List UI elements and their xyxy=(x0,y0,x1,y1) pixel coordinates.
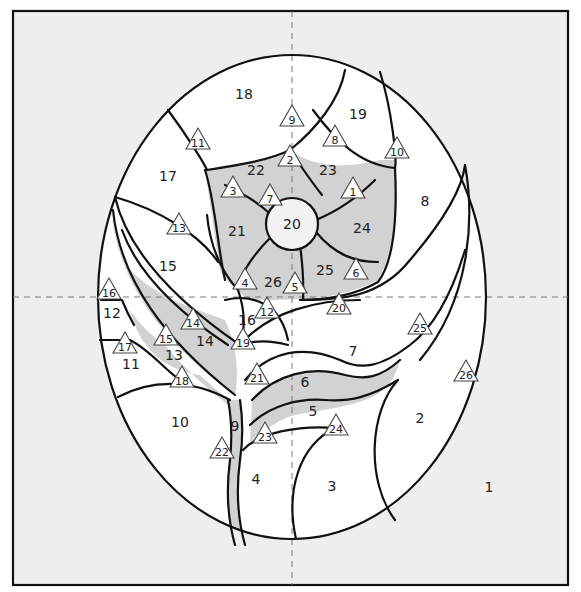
piece-label: 8 xyxy=(421,193,430,209)
triangle-marker-label: 1 xyxy=(350,186,357,199)
triangle-marker-label: 8 xyxy=(332,134,339,147)
triangle-marker-label: 12 xyxy=(260,306,274,319)
stained-glass-pattern: 1234567891011121314151617181920212223242… xyxy=(0,0,581,592)
triangle-marker-label: 2 xyxy=(287,154,294,167)
piece-label: 10 xyxy=(171,414,189,430)
triangle-marker-label: 17 xyxy=(118,341,132,354)
triangle-marker-label: 3 xyxy=(230,185,237,198)
triangle-marker-label: 20 xyxy=(332,302,346,315)
piece-label: 26 xyxy=(264,274,282,290)
triangle-marker-label: 7 xyxy=(267,193,274,206)
piece-label: 21 xyxy=(228,223,246,239)
piece-label: 15 xyxy=(159,258,177,274)
piece-label: 4 xyxy=(252,471,261,487)
piece-label: 2 xyxy=(416,410,425,426)
piece-label: 20 xyxy=(283,216,301,232)
triangle-marker-label: 14 xyxy=(186,317,200,330)
piece-label: 18 xyxy=(235,86,253,102)
triangle-marker-label: 6 xyxy=(353,267,360,280)
triangle-marker-label: 21 xyxy=(250,372,264,385)
piece-label: 23 xyxy=(319,162,337,178)
piece-label: 6 xyxy=(301,374,310,390)
piece-label: 22 xyxy=(247,162,265,178)
triangle-marker-label: 26 xyxy=(459,369,473,382)
triangle-marker-label: 25 xyxy=(413,322,427,335)
triangle-marker-label: 10 xyxy=(390,146,404,159)
triangle-marker-label: 11 xyxy=(191,137,205,150)
piece-label: 7 xyxy=(349,343,358,359)
piece-label: 5 xyxy=(309,403,318,419)
triangle-marker-label: 24 xyxy=(329,423,343,436)
piece-label: 1 xyxy=(485,479,494,495)
triangle-marker-label: 22 xyxy=(215,446,229,459)
piece-label: 12 xyxy=(103,305,121,321)
piece-label: 19 xyxy=(349,106,367,122)
piece-label: 24 xyxy=(353,220,371,236)
pattern-canvas: 1234567891011121314151617181920212223242… xyxy=(0,0,581,592)
piece-label: 9 xyxy=(231,418,240,434)
piece-label: 17 xyxy=(159,168,177,184)
triangle-marker-label: 4 xyxy=(242,277,249,290)
triangle-marker-label: 5 xyxy=(292,281,299,294)
piece-label: 3 xyxy=(328,478,337,494)
triangle-marker-label: 13 xyxy=(172,222,186,235)
piece-label: 13 xyxy=(165,347,183,363)
piece-label: 25 xyxy=(316,262,334,278)
triangle-marker-label: 9 xyxy=(289,114,296,127)
piece-label: 14 xyxy=(196,333,214,349)
triangle-marker-label: 16 xyxy=(102,287,116,300)
triangle-marker-label: 23 xyxy=(258,431,272,444)
piece-label: 16 xyxy=(238,312,256,328)
triangle-marker-label: 19 xyxy=(236,337,250,350)
piece-label: 11 xyxy=(122,356,140,372)
triangle-marker-label: 15 xyxy=(159,333,173,346)
triangle-marker-label: 18 xyxy=(175,375,189,388)
